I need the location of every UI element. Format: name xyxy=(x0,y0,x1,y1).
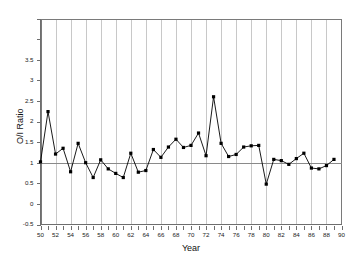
data-point-marker xyxy=(310,166,313,169)
data-point-marker xyxy=(99,158,102,161)
y-axis-title: O/I Ratio xyxy=(16,108,25,144)
data-point-marker xyxy=(317,167,320,170)
x-axis-title: Year xyxy=(41,244,342,253)
data-point-marker xyxy=(92,176,95,179)
data-point-marker xyxy=(174,138,177,141)
data-point-marker xyxy=(332,158,335,161)
data-point-marker xyxy=(46,110,49,113)
data-point-marker xyxy=(84,161,87,164)
data-point-marker xyxy=(77,142,80,145)
data-point-marker xyxy=(189,144,192,147)
series-line xyxy=(41,97,334,184)
data-point-marker xyxy=(114,172,117,175)
data-point-marker xyxy=(227,155,230,158)
data-point-marker xyxy=(212,95,215,98)
data-series-oi-ratio xyxy=(0,0,361,261)
data-point-marker xyxy=(61,147,64,150)
data-point-marker xyxy=(152,148,155,151)
data-point-marker xyxy=(287,163,290,166)
data-point-marker xyxy=(302,152,305,155)
data-point-marker xyxy=(250,144,253,147)
data-point-marker xyxy=(235,153,238,156)
data-point-marker xyxy=(69,170,72,173)
data-point-marker xyxy=(54,152,57,155)
data-point-marker xyxy=(39,160,42,163)
data-point-marker xyxy=(197,131,200,134)
data-point-marker xyxy=(167,145,170,148)
data-point-marker xyxy=(137,171,140,174)
data-point-marker xyxy=(280,159,283,162)
data-point-marker xyxy=(129,152,132,155)
data-point-marker xyxy=(107,167,110,170)
data-point-marker xyxy=(295,157,298,160)
chart-container: -0.500.511.522.533.5 5052545658606264666… xyxy=(0,0,361,261)
data-point-marker xyxy=(257,144,260,147)
data-point-marker xyxy=(265,183,268,186)
data-point-marker xyxy=(325,164,328,167)
data-point-marker xyxy=(144,169,147,172)
data-point-marker xyxy=(122,176,125,179)
data-point-marker xyxy=(220,142,223,145)
data-point-marker xyxy=(182,146,185,149)
data-point-marker xyxy=(272,158,275,161)
data-point-marker xyxy=(242,145,245,148)
data-point-marker xyxy=(204,154,207,157)
data-point-marker xyxy=(159,156,162,159)
